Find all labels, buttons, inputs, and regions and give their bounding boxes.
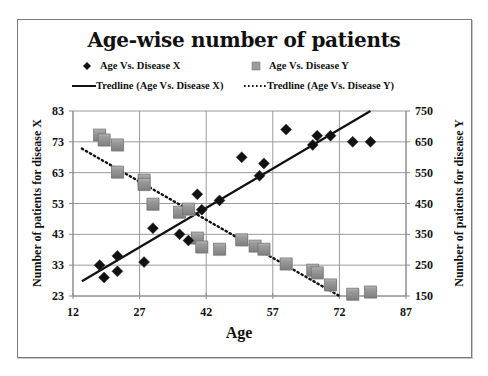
y-right-tick-label: 450	[415, 197, 433, 211]
series-disease-y	[94, 129, 378, 301]
y-axis-left-label: Number of patients for disease X	[30, 119, 44, 287]
data-point-disease-y	[364, 286, 376, 298]
data-point-disease-x	[236, 152, 247, 163]
x-tick-label: 42	[200, 305, 212, 319]
data-point-disease-x	[174, 229, 185, 240]
y-left-tick-label: 53	[52, 197, 64, 211]
data-point-disease-y	[182, 203, 194, 215]
x-axis-label: Age	[226, 324, 253, 342]
y-left-tick-label: 33	[52, 258, 64, 272]
y-left-tick-label: 83	[52, 104, 64, 118]
data-point-disease-y	[236, 234, 248, 246]
y-right-tick-label: 750	[415, 104, 433, 118]
data-point-disease-x	[99, 272, 110, 283]
x-tick-label: 87	[400, 305, 412, 319]
data-point-disease-x	[112, 250, 123, 261]
x-tick-label: 72	[333, 305, 345, 319]
data-point-disease-y	[258, 243, 270, 255]
x-tick-label: 27	[134, 305, 146, 319]
data-point-disease-y	[347, 288, 359, 300]
y-left-tick-label: 73	[52, 135, 64, 149]
x-tick-label: 57	[267, 305, 279, 319]
data-point-disease-x	[365, 136, 376, 147]
data-point-disease-y	[111, 166, 123, 178]
data-point-disease-y	[325, 279, 337, 291]
data-point-disease-y	[196, 241, 208, 253]
y-right-tick-label: 250	[415, 258, 433, 272]
y-left-axis-ticks: 23334353637383	[52, 104, 73, 303]
data-point-disease-x	[281, 124, 292, 135]
data-point-disease-x	[307, 139, 318, 150]
y-right-tick-label: 650	[415, 135, 433, 149]
data-point-disease-x	[347, 136, 358, 147]
data-point-disease-y	[147, 198, 159, 210]
data-point-disease-y	[111, 139, 123, 151]
data-point-disease-x	[192, 189, 203, 200]
y-right-tick-label: 350	[415, 227, 433, 241]
y-left-tick-label: 43	[52, 227, 64, 241]
x-axis-ticks: 122742577287	[67, 293, 412, 319]
data-point-disease-x	[112, 266, 123, 277]
y-axis-right-label: Number of patients for disease Y	[452, 119, 466, 287]
data-point-disease-x	[258, 158, 269, 169]
data-point-disease-y	[138, 178, 150, 190]
plot-area: 122742577287 23334353637383 150250350450…	[0, 0, 488, 376]
data-point-disease-x	[139, 257, 150, 268]
y-left-tick-label: 23	[52, 289, 64, 303]
y-left-tick-label: 63	[52, 166, 64, 180]
data-point-disease-y	[280, 258, 292, 270]
x-tick-label: 12	[67, 305, 79, 319]
y-right-tick-label: 550	[415, 166, 433, 180]
y-right-axis-ticks: 150250350450550650750	[406, 104, 433, 303]
data-point-disease-y	[98, 134, 110, 146]
data-point-disease-y	[214, 243, 226, 255]
y-right-tick-label: 150	[415, 289, 433, 303]
data-point-disease-x	[147, 223, 158, 234]
data-point-disease-y	[311, 267, 323, 279]
